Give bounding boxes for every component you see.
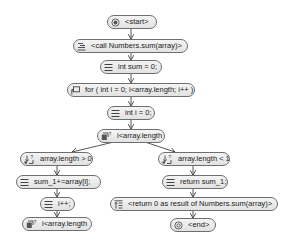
node-label: <call Numbers.sum(array)> [91, 42, 182, 50]
node-label: <return 0 as result of Numbers.sum(array… [128, 200, 272, 208]
condition-icon: ? [26, 220, 37, 229]
svg-text:?: ? [169, 155, 172, 160]
call-icon [77, 42, 86, 51]
svg-text:?: ? [34, 220, 37, 225]
condition-icon: ? [101, 132, 112, 141]
start-icon [111, 18, 120, 27]
node-sum-add[interactable]: sum_1+=array[i]; [16, 175, 101, 189]
node-int-sum[interactable]: int sum = 0; [100, 60, 162, 74]
node-label: i<array.length [42, 220, 87, 228]
node-label: i<array.length [117, 132, 162, 140]
node-label: <end> [188, 221, 209, 229]
node-label: array.length > 0 [40, 155, 92, 163]
svg-text:?: ? [31, 155, 34, 160]
node-condition-loop[interactable]: ? i<array.length [97, 129, 165, 143]
loop-icon [71, 86, 80, 95]
node-for-loop[interactable]: for ( int i = 0; i<array.length; i++ ) [67, 83, 195, 97]
node-label: for ( int i = 0; i<array.length; i++ ) [85, 86, 193, 94]
node-branch-lt[interactable]: ? array.length < 1 [158, 152, 230, 166]
node-label: <start> [125, 18, 148, 26]
node-label: sum_1+=array[i]; [34, 178, 90, 186]
statement-icon [20, 178, 29, 187]
branch-icon: ? [162, 155, 173, 164]
flowchart-canvas: <start> <call Numbers.sum(array)> int su… [0, 0, 291, 243]
node-label: int i = 0; [125, 109, 151, 117]
node-label: array.length < 1 [178, 155, 230, 163]
node-return-sum[interactable]: return sum_1; [162, 175, 228, 189]
node-increment[interactable]: i++; [40, 197, 75, 211]
node-start[interactable]: <start> [107, 15, 157, 29]
svg-text:?: ? [109, 132, 112, 137]
node-branch-gt[interactable]: ? array.length > 0 [20, 152, 93, 166]
branch-icon: ? [24, 155, 35, 164]
node-label: int sum = 0; [118, 63, 157, 71]
node-condition-loop-back[interactable]: ? i<array.length [22, 217, 92, 231]
node-label: return sum_1; [180, 178, 226, 186]
node-label: i++; [58, 200, 71, 208]
node-int-i[interactable]: int i = 0; [107, 106, 155, 120]
statement-icon [104, 63, 113, 72]
node-end[interactable]: <end> [170, 218, 216, 232]
statement-icon [166, 178, 175, 187]
statement-icon [44, 200, 53, 209]
statement-icon [111, 109, 120, 118]
node-return-result[interactable]: <return 0 as result of Numbers.sum(array… [110, 197, 278, 211]
end-icon [174, 221, 183, 230]
return-icon [114, 200, 123, 209]
node-call[interactable]: <call Numbers.sum(array)> [73, 39, 188, 53]
